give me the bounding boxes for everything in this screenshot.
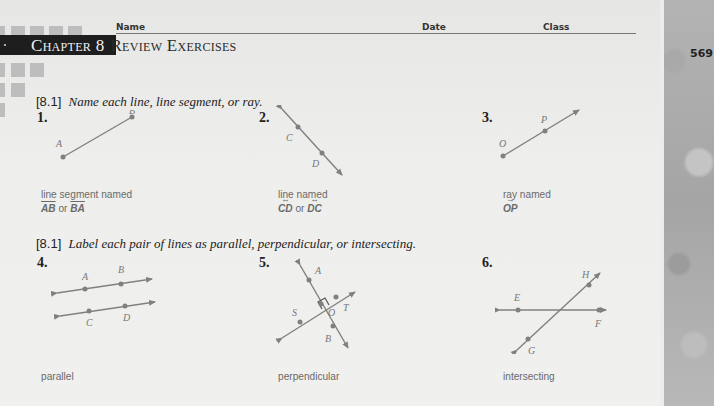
svg-text:E: E xyxy=(513,292,520,303)
exercise-answer: ray named OP xyxy=(503,187,551,215)
svg-text:F: F xyxy=(594,318,602,329)
date-label: Date xyxy=(422,22,446,32)
exercise-answer: perpendicular xyxy=(278,369,339,383)
page-edge-texture xyxy=(664,0,714,406)
exercise-number: 3. xyxy=(482,110,493,126)
chapter-title: Review Exercises xyxy=(104,36,236,55)
name-label: Name xyxy=(116,22,145,32)
section-1-title: [8.1] Name each line, line segment, or r… xyxy=(36,94,262,110)
exercise-number: 5. xyxy=(259,255,270,271)
answer-join: or xyxy=(295,202,304,214)
exercise-number: 2. xyxy=(259,110,270,126)
answer-prefix: line segment named xyxy=(41,187,132,201)
class-label: Class xyxy=(543,22,569,32)
line-cd: CD xyxy=(278,201,293,215)
svg-text:A: A xyxy=(314,265,322,276)
section-instruction: Label each pair of lines as parallel, pe… xyxy=(69,236,416,251)
exercise-answer: parallel xyxy=(41,369,74,383)
intersecting-lines-figure: E F G H xyxy=(495,262,625,354)
ray-figure: O P xyxy=(495,105,595,165)
line-figure: C D xyxy=(270,105,350,180)
parallel-lines-figure: A B C D xyxy=(50,258,170,328)
exercise-number: 1. xyxy=(37,110,48,126)
svg-text:A: A xyxy=(55,138,63,149)
svg-text:C: C xyxy=(86,317,93,328)
segment-ab: AB xyxy=(41,201,56,215)
ray-op: OP xyxy=(503,201,518,215)
svg-text:P: P xyxy=(540,114,547,125)
exercise-number: 6. xyxy=(482,255,493,271)
chapter-heading: Chapter 8Review Exercises xyxy=(31,35,237,55)
exercise-answer: line named CD or DC xyxy=(278,187,328,215)
svg-text:B: B xyxy=(325,333,331,344)
svg-text:O: O xyxy=(328,307,335,318)
svg-text:D: D xyxy=(122,312,131,323)
section-2-title: [8.1] Label each pair of lines as parall… xyxy=(36,236,416,252)
page-number: 569 xyxy=(690,47,713,60)
line-segment-figure: A B xyxy=(50,110,150,170)
segment-ba: BA xyxy=(70,201,85,215)
svg-text:A: A xyxy=(81,271,89,282)
svg-text:S: S xyxy=(292,307,297,318)
svg-text:G: G xyxy=(528,345,535,354)
svg-text:O: O xyxy=(499,138,506,149)
svg-text:C: C xyxy=(286,132,293,143)
section-tag: [8.1] xyxy=(36,236,61,251)
svg-text:H: H xyxy=(581,269,590,280)
exercise-number: 4. xyxy=(37,255,48,271)
svg-text:T: T xyxy=(343,302,350,313)
section-tag: [8.1] xyxy=(36,94,61,109)
section-instruction: Name each line, line segment, or ray. xyxy=(69,94,263,109)
answer-join: or xyxy=(58,202,67,214)
chapter-label: Chapter 8 xyxy=(31,36,104,55)
perpendicular-lines-figure: A B S T O xyxy=(270,258,370,353)
svg-text:D: D xyxy=(311,158,320,169)
exercise-answer: line segment named AB or BA xyxy=(41,187,132,215)
svg-text:B: B xyxy=(118,264,124,275)
header-rule xyxy=(116,33,636,34)
line-dc: DC xyxy=(307,201,322,215)
svg-text:B: B xyxy=(129,110,135,116)
exercise-answer: intersecting xyxy=(503,369,555,383)
